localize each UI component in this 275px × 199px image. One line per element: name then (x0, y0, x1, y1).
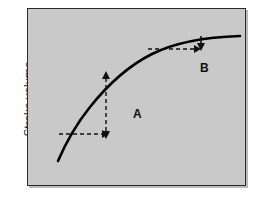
frank-starling-figure: Stroke volume A B (0, 0, 275, 199)
y-axis-label-container: Stroke volume (0, 0, 26, 199)
plot-area: A B (27, 8, 246, 186)
curve-svg (28, 9, 247, 187)
stroke-volume-curve (58, 36, 240, 161)
annotation-label-b: B (200, 61, 209, 75)
annotation-a-vertical-arrowhead-top (102, 71, 110, 79)
annotation-label-a: A (133, 107, 142, 121)
